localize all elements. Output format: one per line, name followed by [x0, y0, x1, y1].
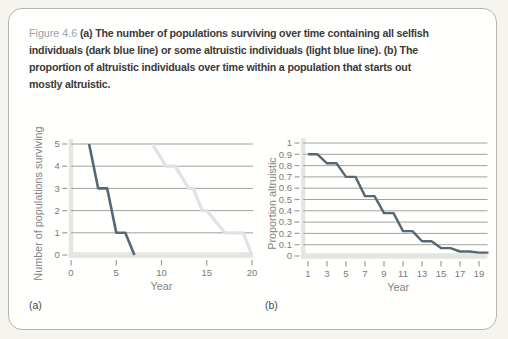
x-tick-label: 3 — [324, 268, 329, 279]
x-tick-label: 13 — [417, 268, 428, 279]
y-axis-title: Proportion altruistic — [266, 157, 278, 250]
x-tick-label: 10 — [156, 267, 167, 278]
y-tick-label: 0.4 — [279, 205, 292, 216]
y-tick-label: 3 — [54, 183, 59, 194]
x-tick-label: 7 — [362, 268, 367, 279]
y-tick-label: 5 — [54, 138, 59, 149]
y-tick-label: 2 — [54, 205, 59, 216]
y-tick-label: 0.6 — [279, 182, 292, 193]
y-axis-band — [301, 138, 306, 259]
y-tick-label: 0.3 — [279, 216, 292, 227]
chart-b-proportion-altruistic: 00.10.20.30.40.50.60.70.80.9113579111315… — [259, 109, 508, 314]
x-axis-title: Year — [387, 281, 409, 293]
x-axis-band — [69, 252, 253, 258]
x-tick-label: 1 — [305, 268, 310, 279]
caption-line-2: individuals (dark blue line) or some alt… — [29, 42, 501, 59]
y-axis-band — [69, 139, 74, 258]
caption-line-1: Figure 4.6 (a) The number of populations… — [29, 25, 501, 42]
figure-card: Figure 4.6 (a) The number of populations… — [8, 8, 497, 330]
caption-line-4: mostly altruistic. — [29, 76, 501, 93]
series-altruistic-populations-line — [152, 144, 252, 255]
x-tick-label: 5 — [343, 268, 348, 279]
x-tick-label: 20 — [247, 267, 258, 278]
y-axis-title: Number of populations surviving — [32, 126, 44, 280]
x-tick-label: 17 — [455, 268, 466, 279]
panel-label-b: (b) — [265, 299, 278, 311]
y-tick-label: 0.7 — [279, 171, 292, 182]
y-tick-label: 1 — [54, 227, 59, 238]
x-tick-label: 11 — [398, 268, 408, 279]
x-axis-band — [301, 253, 488, 259]
panel-label-a: (a) — [29, 299, 42, 311]
x-tick-label: 9 — [381, 268, 386, 279]
y-tick-label: 0.2 — [279, 228, 292, 239]
series-selfish-populations-line — [89, 144, 134, 255]
figure-number: Figure 4.6 — [29, 27, 77, 39]
series-proportion-altruistic-line — [308, 154, 489, 252]
figure-caption: Figure 4.6 (a) The number of populations… — [29, 25, 501, 93]
y-tick-label: 1 — [287, 137, 292, 148]
y-tick-label: 0 — [54, 249, 59, 260]
x-tick-label: 0 — [68, 267, 73, 278]
y-tick-label: 0.5 — [279, 194, 292, 205]
caption-text-1: (a) The number of populations surviving … — [77, 27, 429, 39]
x-tick-label: 5 — [114, 267, 119, 278]
x-tick-label: 15 — [436, 268, 447, 279]
x-tick-label: 19 — [474, 268, 485, 279]
x-axis-title: Year — [151, 280, 173, 292]
chart-a-populations-surviving: 01234505101520YearNumber of populations … — [19, 109, 269, 314]
y-tick-label: 0 — [287, 250, 292, 261]
y-tick-label: 0.9 — [279, 149, 292, 160]
y-tick-label: 0.8 — [279, 160, 292, 171]
caption-line-3: proportion of altruistic individuals ove… — [29, 59, 501, 76]
x-tick-label: 15 — [201, 267, 212, 278]
y-tick-label: 4 — [54, 160, 59, 171]
y-tick-label: 0.1 — [279, 239, 292, 250]
